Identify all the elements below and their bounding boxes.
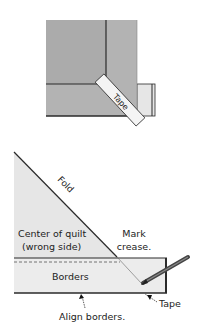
borders-label: Borders (52, 271, 89, 282)
center-label-line1: Center of quilt (18, 228, 87, 239)
tape-arrow (145, 294, 157, 302)
align-arrow (79, 294, 85, 308)
align-borders-label: Align borders. (59, 311, 125, 322)
borders-strip (14, 258, 167, 293)
center-label-line2: (wrong side) (22, 241, 81, 252)
quilt-right-border (106, 20, 137, 84)
tape-label-bottom: Tape (158, 298, 181, 309)
mark-label-line2: crease. (117, 241, 151, 252)
bottom-diagram-fold-and-mark: Fold Center of quilt (wrong side) Mark c… (14, 152, 188, 322)
fold-label: Fold (56, 174, 76, 194)
mark-label-line1: Mark (122, 228, 146, 239)
top-diagram-mitered-corner: Tape (46, 20, 155, 126)
quilt-bottom-border (46, 84, 106, 116)
quilt-diagram: Tape Fold Center of quilt (0, 0, 199, 334)
